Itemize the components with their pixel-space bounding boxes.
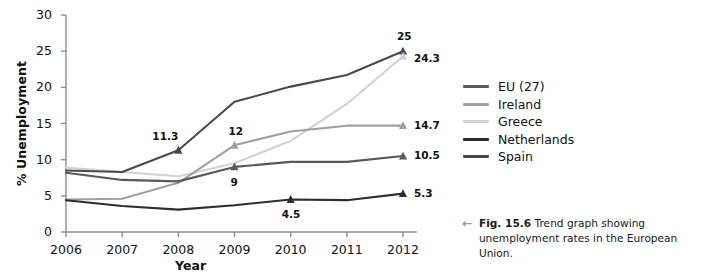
- x-axis-tick-label: 2011: [324, 242, 370, 257]
- data-point-value-label: 25: [397, 30, 412, 42]
- y-axis-tick-label: 10: [26, 152, 52, 167]
- legend-color-swatch: [463, 138, 489, 141]
- legend-item[interactable]: Greece: [463, 113, 693, 131]
- legend-item[interactable]: Ireland: [463, 96, 693, 114]
- y-axis-tick-label: 30: [26, 7, 52, 22]
- legend-color-swatch: [463, 155, 489, 158]
- trend-line-chart-svg: [0, 0, 450, 279]
- legend-color-swatch: [463, 85, 489, 88]
- data-point-value-label: 4.5: [282, 208, 301, 220]
- series-line-netherlands: [66, 194, 403, 210]
- y-axis-tick-label: 25: [26, 43, 52, 58]
- x-axis-tick-label: 2010: [268, 242, 314, 257]
- legend-color-swatch: [463, 103, 489, 106]
- legend-color-swatch: [463, 120, 489, 123]
- data-point-value-label: 24.3: [414, 52, 440, 64]
- legend-item[interactable]: Netherlands: [463, 131, 693, 149]
- caption-body: Fig. 15.6 Trend graph showing unemployme…: [479, 216, 700, 261]
- data-point-value-label: 9: [231, 176, 238, 188]
- x-axis-title: Year: [175, 258, 206, 273]
- x-axis-tick-label: 2007: [99, 242, 145, 257]
- y-axis-tick-label: 0: [26, 224, 52, 239]
- data-point-value-label: 14.7: [414, 119, 440, 131]
- x-axis-tick-label: 2008: [155, 242, 201, 257]
- x-axis-tick-label: 2009: [212, 242, 258, 257]
- legend-item-label: Ireland: [498, 97, 541, 112]
- x-axis-tick-label: 2006: [43, 242, 89, 257]
- chart-legend: EU (27)IrelandGreeceNetherlandsSpain: [463, 78, 693, 166]
- plot-area: % Unemployment Year 051015202530 2006200…: [0, 0, 450, 279]
- legend-item-label: Spain: [498, 149, 533, 164]
- data-point-value-label: 11.3: [152, 130, 178, 142]
- y-axis-tick-label: 15: [26, 116, 52, 131]
- legend-item[interactable]: EU (27): [463, 78, 693, 96]
- chart-figure: % Unemployment Year 051015202530 2006200…: [0, 0, 706, 279]
- legend-item[interactable]: Spain: [463, 148, 693, 166]
- caption-figure-number: Fig. 15.6: [479, 217, 531, 229]
- data-point-value-label: 12: [229, 125, 244, 137]
- data-point-value-label: 5.3: [414, 187, 433, 199]
- series-line-greece: [66, 56, 403, 176]
- x-axis-tick-label: 2012: [380, 242, 426, 257]
- figure-caption: ← Fig. 15.6 Trend graph showing unemploy…: [462, 216, 700, 261]
- legend-item-label: Greece: [498, 114, 543, 129]
- legend-item-label: Netherlands: [498, 132, 574, 147]
- caption-arrow-icon: ←: [462, 216, 473, 231]
- data-point-value-label: 10.5: [414, 149, 440, 161]
- y-axis-tick-label: 5: [26, 188, 52, 203]
- y-axis-tick-label: 20: [26, 79, 52, 94]
- series-line-spain: [66, 51, 403, 172]
- legend-item-label: EU (27): [498, 79, 545, 94]
